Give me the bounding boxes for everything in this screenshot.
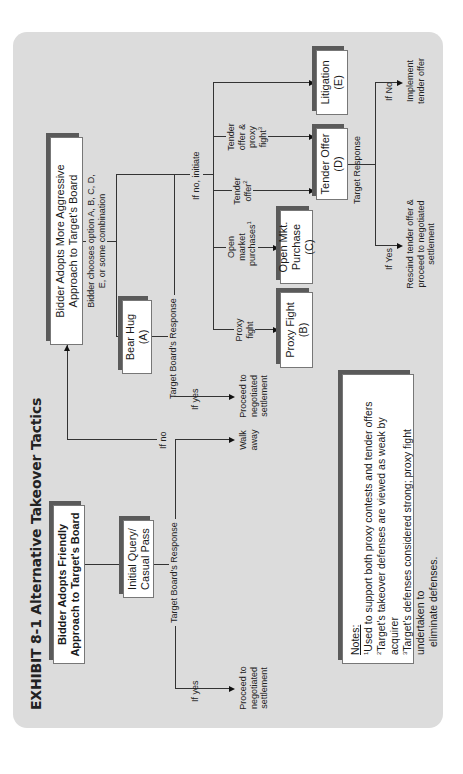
connector	[213, 82, 310, 83]
proxy-fight-box: Proxy Fight (B)	[280, 292, 313, 368]
footnote-marker: 3	[402, 652, 408, 655]
proxy-fight-label: Proxy Fight (B)	[284, 297, 310, 363]
connector	[116, 175, 117, 337]
arrow-down-icon	[229, 394, 235, 400]
tender-offer-label: Tender Offer (D)	[319, 133, 345, 195]
notes-heading: Notes:	[349, 625, 361, 655]
bidder-chooses-label: Bidder chooses option A, B, C, D, E, or …	[86, 173, 107, 309]
if-yes-label-3: If Yes	[384, 248, 395, 270]
arrow-down-icon	[309, 134, 315, 140]
open-market-label: Open Mkt. Purchase (C)	[277, 215, 316, 279]
diagram-canvas: EXHIBIT 8-1 Alternative Takeover Tactics…	[0, 0, 463, 774]
notes-box: Notes: 1Used to support both proxy conte…	[342, 374, 414, 664]
bear-hug-box: Bear Hug (A)	[122, 300, 152, 374]
aggressive-approach-label: Bidder Adopts More Aggressive Approach t…	[54, 142, 80, 340]
proxy-fight-branch-label: Proxy fight	[234, 318, 255, 342]
note-3-continued: eliminate defenses.	[427, 383, 440, 655]
note-text: Used to support both proxy contests and …	[362, 401, 374, 651]
if-yes-label-2: If yes	[190, 388, 201, 410]
tender-offer-branch-label: Tender offer2	[232, 176, 253, 206]
if-no-label: If no	[158, 431, 169, 449]
arrow-down-icon	[309, 80, 315, 86]
if-yes-label: If yes	[190, 680, 201, 702]
connector	[85, 564, 123, 565]
connector	[213, 190, 310, 191]
proceed-settlement-label-2: Proceed to negotiated settlement	[238, 374, 270, 418]
if-no-label-3: If No	[384, 82, 395, 101]
open-market-box: Open Mkt. Purchase (C)	[280, 210, 313, 284]
note-1: 1Used to support both proxy contests and…	[362, 383, 375, 655]
litigation-box: Litigation (E)	[316, 50, 348, 115]
rescind-label: Rescind tender offer & proceed to negoti…	[405, 184, 437, 304]
if-no-initiate-label: If no, initiate	[190, 149, 203, 202]
connector	[67, 345, 68, 440]
connector	[67, 439, 157, 440]
connector	[175, 688, 230, 689]
litigation-label: Litigation (E)	[319, 55, 345, 110]
connector	[175, 439, 230, 440]
arrow-down-icon	[397, 80, 403, 86]
exhibit-title: EXHIBIT 8-1 Alternative Takeover Tactics	[28, 398, 44, 710]
tender-proxy-branch-label: Tender offer & proxy fight3	[226, 115, 268, 159]
bear-hug-label: Bear Hug (A)	[124, 305, 150, 369]
open-market-branch-label: Open market purchases1	[226, 228, 258, 266]
connector	[213, 83, 214, 330]
open-market-branch-text: Open market purchases	[226, 224, 257, 266]
footnote-marker: 2	[376, 652, 382, 655]
arrow-down-icon	[273, 327, 279, 333]
note-3: 3Target's defenses considered strong; pr…	[401, 383, 427, 655]
footnote-marker: 2	[242, 180, 248, 183]
initial-query-box: Initial Query/ Casual Pass	[123, 520, 154, 598]
target-boards-response-label-2: Target Board's Response	[168, 295, 179, 402]
note-2: 2Target's takeover defenses are viewed a…	[375, 383, 401, 655]
note-text: Target's defenses considered strong; pro…	[401, 429, 426, 655]
target-response-label: Target Response	[352, 136, 363, 204]
footnote-marker: 3	[257, 127, 263, 130]
initial-query-label: Initial Query/ Casual Pass	[126, 525, 152, 593]
aggressive-approach-box: Bidder Adopts More Aggressive Approach t…	[50, 137, 83, 345]
tender-offer-box: Tender Offer (D)	[316, 128, 348, 200]
footnote-marker: 1	[363, 652, 369, 655]
target-boards-response-label: Target Board's Response	[169, 519, 180, 626]
note-text: Target's takeover defenses are viewed as…	[375, 417, 400, 655]
walk-away-label: Walk away	[238, 426, 259, 454]
friendly-approach-box: Bidder Adopts Friendly Approach to Targe…	[53, 505, 85, 664]
arrow-down-icon	[309, 188, 315, 194]
connector	[116, 174, 174, 175]
arrow-down-icon	[229, 437, 235, 443]
footnote-marker: 1	[246, 221, 252, 224]
connector	[375, 245, 398, 246]
connector	[375, 83, 376, 246]
arrow-down-icon	[397, 243, 403, 249]
connector	[174, 396, 230, 397]
implement-label: Implement tender offer	[405, 50, 426, 112]
friendly-approach-label: Bidder Adopts Friendly Approach to Targe…	[56, 510, 82, 659]
arrow-right-icon	[64, 345, 70, 351]
proceed-settlement-label: Proceed to negotiated settlement	[238, 666, 270, 710]
arrow-down-icon	[229, 686, 235, 692]
